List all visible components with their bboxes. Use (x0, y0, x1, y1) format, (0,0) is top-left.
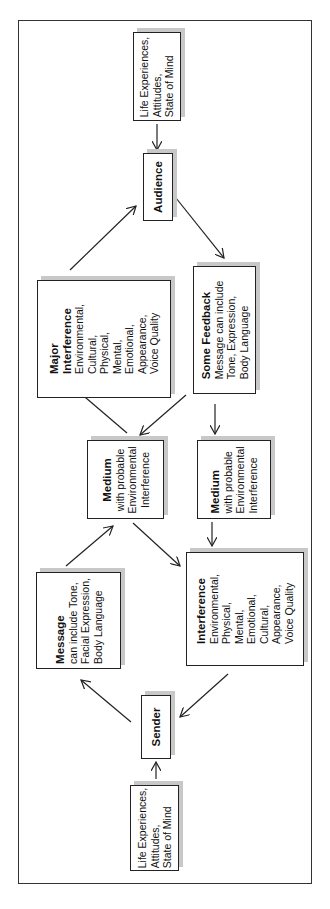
some-feedback-line-3: Body Language (237, 281, 250, 380)
interference-title: Interference (195, 574, 208, 644)
audience-title: Audience (152, 161, 165, 213)
interference-line-4: Emotional, (245, 574, 258, 644)
interference-line-3: Mental, (233, 574, 246, 644)
sender-context-line-3: State of Mind (161, 788, 174, 869)
medium-right-box: Medium with probable Environmental Inter… (197, 440, 271, 519)
some-feedback-line-1: Message can include (212, 281, 225, 380)
some-feedback-title: Some Feedback (200, 281, 213, 380)
medium-right-line-1: with probable (222, 446, 235, 513)
medium-right-line-3: Interference (247, 446, 260, 513)
sender-box: Sender (141, 695, 171, 759)
connector-arrows (0, 0, 330, 909)
message-title: Message (54, 578, 67, 664)
major-interference-line-3: Physical, (98, 304, 111, 374)
sender-context-box: Life Experiences, Attitudes, State of Mi… (130, 785, 179, 871)
message-line-1: can include Tone, (66, 578, 79, 664)
interference-line-2: Physical, (220, 574, 233, 644)
audience-context-box: Life Experiences, Attitudes, State of Mi… (133, 32, 181, 121)
medium-left-line-3: Interference (138, 446, 151, 513)
message-line-2: Facial Expression, (79, 578, 92, 664)
medium-right-line-2: Environmental (234, 446, 247, 513)
interference-line-7: Voice Quality (283, 574, 296, 644)
interference-line-1: Environmental, (208, 574, 221, 644)
major-interference-line-2: Cultural, (85, 304, 98, 374)
major-interference-title-2: Interference (60, 304, 73, 374)
interference-line-5: Cultural, (258, 574, 271, 644)
major-interference-line-7: Voice Quality (148, 304, 161, 374)
audience-context-line-2: Attitudes, (151, 36, 164, 117)
medium-left-line-1: with probable (113, 446, 126, 513)
medium-left-box: Medium with probable Environmental Inter… (87, 440, 164, 519)
medium-left-title: Medium (101, 446, 114, 513)
major-interference-line-1: Environmental, (73, 304, 86, 374)
major-interference-box: Major Interference Environmental, Cultur… (37, 280, 171, 398)
message-box: Message can include Tone, Facial Express… (36, 572, 121, 669)
message-line-3: Body Language (91, 578, 104, 664)
audience-context-line-3: State of Mind (163, 36, 176, 117)
audience-context-line-1: Life Experiences, (138, 36, 151, 117)
some-feedback-line-2: Tone, Expression, (225, 281, 238, 380)
major-interference-line-4: Mental, (110, 304, 123, 374)
major-interference-title-1: Major (48, 304, 61, 374)
medium-left-line-2: Environmental (126, 446, 139, 513)
medium-right-title: Medium (209, 446, 222, 513)
sender-title: Sender (150, 708, 163, 747)
sender-context-line-1: Life Experiences, (136, 788, 149, 869)
audience-box: Audience (143, 153, 173, 221)
sender-context-line-2: Attitudes, (148, 788, 161, 869)
interference-box: Interference Environmental, Physical, Me… (186, 552, 304, 666)
major-interference-line-5: Emotional, (123, 304, 136, 374)
major-interference-line-6: Appearance, (135, 304, 148, 374)
interference-line-6: Appearance, (270, 574, 283, 644)
some-feedback-box: Some Feedback Message can include Tone, … (193, 266, 256, 394)
